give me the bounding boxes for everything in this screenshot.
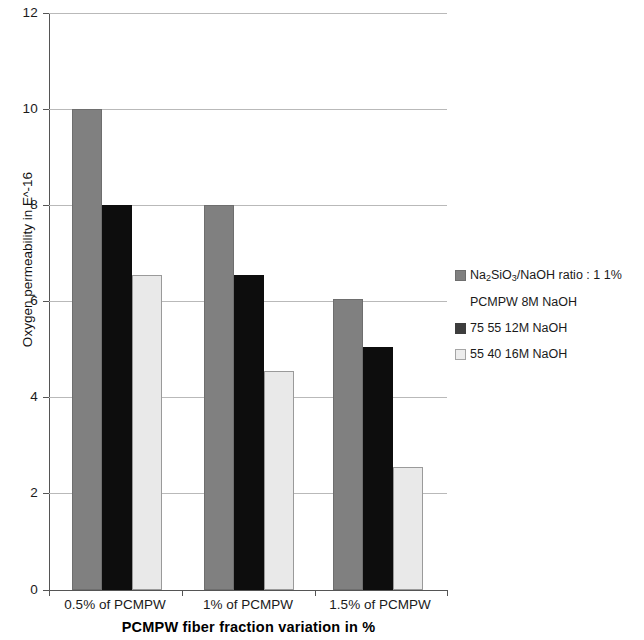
legend-label-2: 55 40 16M NaOH bbox=[470, 347, 567, 362]
x-axis-tick-3 bbox=[447, 590, 448, 596]
bar-g0-s0 bbox=[72, 109, 102, 590]
gridline-10 bbox=[49, 109, 447, 110]
gridline-12 bbox=[49, 13, 447, 14]
legend-label-0-c: /NaOH ratio : 1 1% bbox=[517, 268, 622, 282]
x-axis-tick-0 bbox=[49, 590, 50, 596]
legend-label-1: 75 55 12M NaOH bbox=[470, 321, 567, 336]
legend-swatch-icon-1 bbox=[455, 323, 466, 334]
bar-g1-s1 bbox=[234, 275, 264, 590]
y-axis-title-prefix: Oxygen permeability in E bbox=[20, 197, 35, 347]
y-tick-label-2: 2 bbox=[6, 486, 38, 500]
legend-swatch-icon-0 bbox=[455, 270, 466, 281]
bar-g1-s0 bbox=[204, 205, 234, 590]
legend-label-0-a: Na bbox=[470, 268, 486, 282]
legend-label-0-b: SiO bbox=[491, 268, 512, 282]
x-axis-line bbox=[49, 590, 448, 591]
y-tick-label-12: 12 bbox=[6, 6, 38, 20]
legend-entry-0: Na2SiO3/NaOH ratio : 1 1% bbox=[455, 268, 644, 286]
y-axis-title-caret: ^ bbox=[21, 191, 35, 197]
bar-g2-s1 bbox=[363, 347, 393, 590]
bar-g0-s2 bbox=[132, 275, 162, 590]
y-tick-label-4: 4 bbox=[6, 390, 38, 404]
legend-label-0-line2: PCMPW 8M NaOH bbox=[470, 295, 644, 310]
y-axis-title-suffix: -16 bbox=[20, 172, 35, 192]
y-tick-label-0: 0 bbox=[6, 583, 38, 597]
plot-area bbox=[49, 13, 447, 590]
legend-swatch-icon-2 bbox=[455, 349, 466, 360]
x-axis-tick-1 bbox=[182, 590, 183, 596]
bar-g2-s0 bbox=[333, 299, 363, 590]
legend: Na2SiO3/NaOH ratio : 1 1% PCMPW 8M NaOH … bbox=[455, 268, 644, 371]
legend-label-0: Na2SiO3/NaOH ratio : 1 1% bbox=[470, 268, 622, 286]
x-category-label-2: 1.5% of PCMPW bbox=[300, 597, 460, 612]
y-tick-label-10: 10 bbox=[6, 102, 38, 116]
bar-g2-s2 bbox=[393, 467, 423, 590]
legend-entry-1: 75 55 12M NaOH bbox=[455, 321, 644, 336]
bar-g1-s2 bbox=[264, 371, 294, 590]
bar-chart-figure: 12 10 8 6 4 2 0 bbox=[0, 0, 644, 640]
legend-entry-2: 55 40 16M NaOH bbox=[455, 347, 644, 362]
x-axis-tick-2 bbox=[315, 590, 316, 596]
y-axis-title: Oxygen permeability in E^-16 bbox=[20, 145, 35, 375]
x-axis-title: PCMPW fiber fraction variation in % bbox=[49, 619, 448, 635]
bar-g0-s1 bbox=[102, 205, 132, 590]
